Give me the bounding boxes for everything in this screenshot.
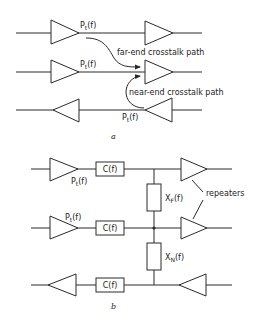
caption-a: a	[111, 132, 116, 141]
amplifier-icon	[51, 20, 79, 44]
far-end-label: far-end crosstalk path	[117, 48, 204, 57]
coupling-label: C(f)	[103, 281, 118, 290]
near-end-label: near-end crosstalk path	[129, 88, 224, 97]
signal-label: Pt(f)	[122, 113, 138, 123]
amplifier-icon	[51, 60, 79, 83]
coupling-label: C(f)	[103, 165, 118, 174]
coupling-label: C(f)	[103, 224, 118, 233]
far-end-impedance	[147, 184, 161, 211]
signal-label: Pt(f)	[80, 60, 96, 70]
line-1-forward: Pt(f)	[16, 20, 202, 45]
line-1-forward: C(f) Pt(f)	[31, 158, 232, 187]
line-3-reverse: Pt(f)	[16, 98, 202, 123]
line-2-forward: C(f) Pt(f)	[31, 213, 232, 239]
signal-label: Pt(f)	[80, 21, 96, 31]
diagram-a: Pt(f) Pt(f) Pt(f) far-end crosstalk path…	[16, 20, 224, 141]
amplifier-icon	[53, 99, 79, 122]
amplifier-icon	[179, 274, 206, 296]
signal-label: Pt(f)	[71, 177, 87, 187]
line-2-forward: Pt(f)	[16, 60, 202, 84]
repeater-icon	[181, 158, 207, 181]
amplifier-icon	[145, 60, 173, 84]
crosstalk-diagram: Pt(f) Pt(f) Pt(f) far-end crosstalk path…	[0, 0, 272, 325]
amplifier-icon	[145, 21, 173, 45]
repeater-icon	[181, 217, 207, 239]
diagram-b: C(f) Pt(f) C(f) Pt(f) C(f) XF(f) XN(f)	[31, 158, 244, 311]
amplifier-icon	[145, 98, 172, 122]
far-end-impedance-label: XF(f)	[165, 194, 183, 204]
caption-b: b	[111, 302, 116, 311]
repeater-callout-line	[192, 180, 203, 192]
near-end-impedance	[147, 243, 161, 270]
amplifier-icon	[48, 274, 76, 296]
repeaters-label: repeaters	[206, 189, 244, 198]
near-end-impedance-label: XN(f)	[165, 253, 184, 263]
repeater-callout-line	[193, 200, 203, 219]
signal-label: Pt(f)	[65, 213, 81, 223]
line-3-reverse: C(f)	[31, 274, 232, 296]
